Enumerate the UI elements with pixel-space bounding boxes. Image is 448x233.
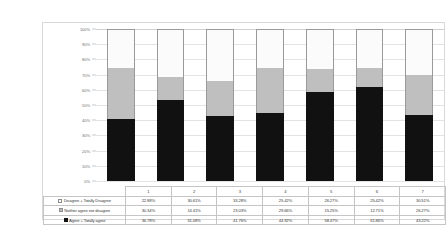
table-cell: 12.71% [354, 206, 400, 216]
bar-segment-neither[interactable] [157, 77, 185, 100]
table-cell: 58.47% [308, 215, 354, 225]
y-axis: 0%10%20%30%40%50%60%70%80%90%100% [43, 23, 96, 186]
bar-slot [146, 29, 196, 181]
table-column-header-2: 2 [171, 187, 217, 197]
bar-slot [345, 29, 395, 181]
bar-segment-agree[interactable] [306, 92, 334, 181]
bar-segment-disagree[interactable] [405, 29, 433, 75]
y-axis-tick-label: 100% [80, 27, 90, 32]
table-cell: 61.86% [354, 215, 400, 225]
bar-segment-disagree[interactable] [157, 29, 185, 77]
bar-segment-disagree[interactable] [356, 29, 384, 68]
table-cell: 26.27% [308, 196, 354, 206]
series-label: Neither agree nor disagree [64, 208, 110, 213]
bar-slot [195, 29, 245, 181]
table-column-header-5: 5 [308, 187, 354, 197]
y-axis-tick-label: 80% [82, 57, 90, 62]
series-legend-cell: Disagree + Totally Disagree [44, 196, 126, 206]
table-cell: 15.25% [308, 206, 354, 216]
bar-segment-agree[interactable] [256, 113, 284, 181]
y-axis-tick-label: 10% [82, 163, 90, 168]
bar-segment-neither[interactable] [206, 81, 234, 117]
table-column-header-6: 6 [354, 187, 400, 197]
y-axis-tick-label: 70% [82, 72, 90, 77]
series-label: Disagree + Totally Disagree [64, 198, 111, 203]
series-legend-cell: Neither agree nor disagree [44, 206, 126, 216]
table-body: Disagree + Totally Disagree22.88%30.61%3… [44, 196, 446, 225]
stacked-bar[interactable] [256, 29, 284, 181]
bar-segment-agree[interactable] [157, 100, 185, 181]
table-corner-cell [44, 187, 126, 197]
bar-segment-disagree[interactable] [206, 29, 234, 81]
bar-segment-neither[interactable] [306, 69, 334, 92]
bar-slot [295, 29, 345, 181]
legend-swatch-icon [64, 218, 68, 222]
table-cell: 25.42% [354, 196, 400, 206]
stacked-bars [96, 29, 444, 181]
table-cell: 30.51% [400, 196, 446, 206]
stacked-bar[interactable] [356, 29, 384, 181]
plot-region: 0%10%20%30%40%50%60%70%80%90%100% [43, 23, 446, 186]
stacked-bar[interactable] [206, 29, 234, 181]
series-legend-cell: Agree + Totally agree [44, 215, 126, 225]
table-cell: 26.27% [400, 206, 446, 216]
table-cell: 41.76% [217, 215, 263, 225]
bar-segment-disagree[interactable] [107, 29, 135, 68]
table-cell: 25.42% [263, 196, 309, 206]
table-cell: 30.61% [171, 196, 217, 206]
table-cell: 36.78% [126, 215, 172, 225]
table-column-header-3: 3 [217, 187, 263, 197]
gridline [96, 181, 444, 182]
plot-area [96, 29, 444, 181]
bar-segment-neither[interactable] [405, 75, 433, 115]
table-header: 1234567 [44, 187, 446, 197]
table-cell: 14.41% [171, 206, 217, 216]
table-row: Disagree + Totally Disagree22.88%30.61%3… [44, 196, 446, 206]
table-row: Neither agree nor disagree30.34%14.41%23… [44, 206, 446, 216]
y-axis-tick-label: 60% [82, 87, 90, 92]
bar-segment-agree[interactable] [206, 116, 234, 181]
table-cell: 33.28% [217, 196, 263, 206]
chart-data-table: 1234567 Disagree + Totally Disagree22.88… [43, 186, 446, 225]
chart-frame: 0%10%20%30%40%50%60%70%80%90%100% 123456… [42, 22, 445, 220]
table-cell: 29.66% [263, 206, 309, 216]
table-cell: 51.08% [171, 215, 217, 225]
bar-segment-agree[interactable] [405, 115, 433, 181]
bar-segment-neither[interactable] [107, 68, 135, 119]
stacked-bar[interactable] [405, 29, 433, 181]
table-cell: 23.03% [217, 206, 263, 216]
table-column-header-1: 1 [126, 187, 172, 197]
table-header-row: 1234567 [44, 187, 446, 197]
table-cell: 30.34% [126, 206, 172, 216]
bar-segment-neither[interactable] [356, 68, 384, 87]
bar-segment-agree[interactable] [356, 87, 384, 181]
table-column-header-7: 7 [400, 187, 446, 197]
table-cell: 43.22% [400, 215, 446, 225]
bar-slot [96, 29, 146, 181]
table-cell: 44.92% [263, 215, 309, 225]
y-axis-tick-label: 0% [84, 179, 90, 184]
stacked-bar[interactable] [306, 29, 334, 181]
legend-swatch-icon [59, 208, 63, 212]
bar-slot [394, 29, 444, 181]
stacked-bar[interactable] [107, 29, 135, 181]
y-axis-tick-label: 20% [82, 148, 90, 153]
table-row: Agree + Totally agree36.78%51.08%41.76%4… [44, 215, 446, 225]
y-axis-tick-label: 40% [82, 118, 90, 123]
bar-segment-neither[interactable] [256, 68, 284, 113]
y-axis-tick-label: 50% [82, 103, 90, 108]
bar-slot [245, 29, 295, 181]
legend-swatch-icon [58, 199, 62, 203]
y-axis-tick-label: 90% [82, 42, 90, 47]
bar-segment-disagree[interactable] [256, 29, 284, 68]
series-label: Agree + Totally agree [69, 218, 105, 223]
stacked-bar[interactable] [157, 29, 185, 181]
table-cell: 22.88% [126, 196, 172, 206]
y-axis-tick-label: 30% [82, 133, 90, 138]
bar-segment-agree[interactable] [107, 119, 135, 181]
bar-segment-disagree[interactable] [306, 29, 334, 69]
table-column-header-4: 4 [263, 187, 309, 197]
